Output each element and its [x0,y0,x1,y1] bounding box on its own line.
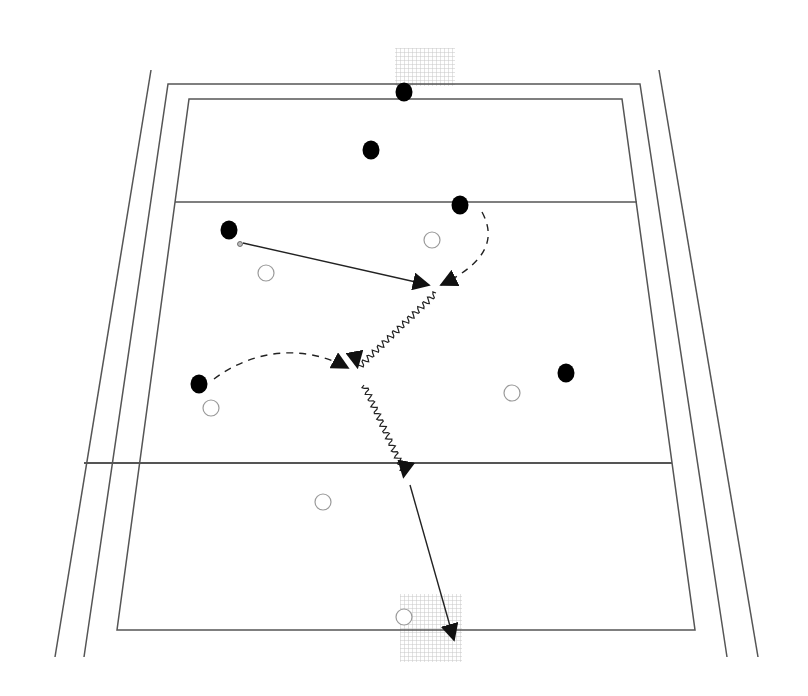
attacker-marker [558,364,575,383]
field-of-play [117,99,695,630]
top-goal [395,48,455,86]
defender-marker [203,400,219,416]
attacker-marker [221,221,238,240]
attacker-marker [191,375,208,394]
bottom-goal [400,594,462,662]
attacker-marker [363,141,380,160]
attacker-marker [396,83,413,102]
dribble-arrow [357,292,436,368]
court-boundary [84,84,727,657]
defender-marker [258,265,274,281]
run-arrow [441,212,488,285]
court [55,70,758,657]
defender-marker [424,232,440,248]
defender-marker [315,494,331,510]
movements [214,212,488,640]
play-diagram [0,0,808,696]
attacker-marker [452,196,469,215]
defender-marker [504,385,520,401]
run-arrow [214,353,348,379]
outer-left-sideline [55,70,151,657]
defender-marker [396,609,412,625]
ball-icon [238,242,243,247]
goals [395,48,462,662]
defenders [203,232,520,625]
outer-right-sideline [659,70,758,657]
ball-layer [238,242,243,247]
